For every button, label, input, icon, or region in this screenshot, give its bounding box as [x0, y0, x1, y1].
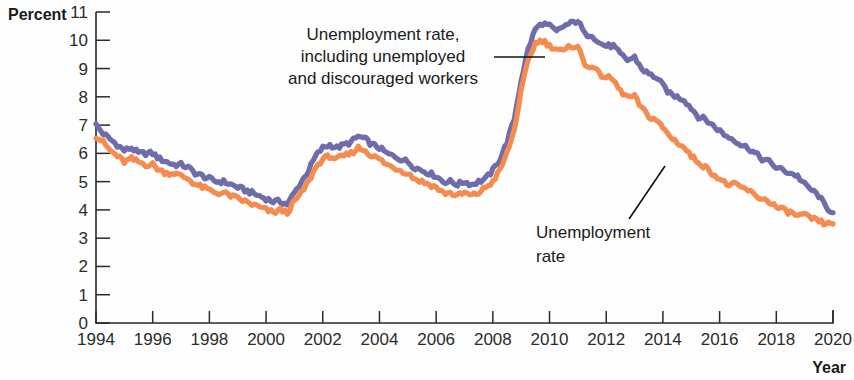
y-axis-tick-labels: 01234567891011: [69, 3, 88, 333]
y-tick-label-2: 2: [79, 257, 88, 276]
x-tick-label-1994: 1994: [77, 330, 115, 349]
y-tick-label-8: 8: [79, 88, 88, 107]
y-tick-label-6: 6: [79, 144, 88, 163]
unemployment-line-chart: 01234567891011 1994199619982000200220042…: [0, 0, 854, 380]
y-tick-label-4: 4: [79, 201, 88, 220]
y-tick-label-9: 9: [79, 60, 88, 79]
y-tick-label-5: 5: [79, 173, 88, 192]
x-axis-title: Year: [812, 359, 846, 376]
annotation-broad-rate: Unemployment rate, including unemployed …: [288, 25, 545, 88]
x-tick-label-1998: 1998: [190, 330, 228, 349]
annotation-headline-rate-line-1: Unemployment: [536, 223, 651, 242]
y-tick-label-11: 11: [70, 3, 88, 22]
x-axis-ticks: [96, 311, 833, 323]
annotation-broad-rate-line-1: Unemployment rate,: [306, 25, 459, 44]
x-tick-label-1996: 1996: [134, 330, 172, 349]
x-tick-label-2006: 2006: [417, 330, 455, 349]
chart-figure: 01234567891011 1994199619982000200220042…: [0, 0, 854, 380]
annotation-headline-rate-line-2: rate: [536, 247, 565, 266]
x-tick-label-2002: 2002: [304, 330, 342, 349]
x-tick-label-2000: 2000: [247, 330, 285, 349]
x-tick-label-2010: 2010: [531, 330, 569, 349]
x-tick-label-2014: 2014: [644, 330, 682, 349]
x-tick-label-2018: 2018: [757, 330, 795, 349]
annotation-broad-rate-line-2: including unemployed: [301, 47, 465, 66]
x-tick-label-2020: 2020: [814, 330, 852, 349]
y-tick-label-7: 7: [79, 116, 88, 135]
x-tick-label-2016: 2016: [701, 330, 739, 349]
y-tick-label-10: 10: [69, 31, 88, 50]
annotation-broad-rate-line-3: and discouraged workers: [288, 69, 478, 88]
annotation-headline-rate-leader-line: [629, 166, 665, 219]
x-tick-label-2008: 2008: [474, 330, 512, 349]
x-tick-label-2004: 2004: [361, 330, 399, 349]
y-tick-label-1: 1: [79, 286, 88, 305]
x-axis-tick-labels: 1994199619982000200220042006200820102012…: [77, 330, 852, 349]
y-tick-label-3: 3: [79, 229, 88, 248]
y-axis-title: Percent: [8, 6, 67, 23]
y-axis-ticks: [96, 12, 110, 323]
annotation-headline-rate: Unemployment rate: [536, 166, 665, 266]
x-tick-label-2012: 2012: [587, 330, 625, 349]
